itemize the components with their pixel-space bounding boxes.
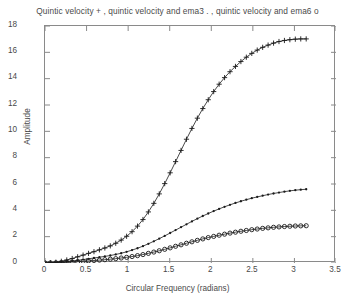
y-tick-label: 6 <box>0 179 17 187</box>
y-tick-label: 10 <box>0 126 17 134</box>
y-tick-label: 4 <box>0 205 17 213</box>
x-tick-label: 3.5 <box>322 266 348 274</box>
plot-svg <box>45 26 336 263</box>
figure-canvas: Quintic velocity + , quintic velocity an… <box>0 0 355 304</box>
plot-area <box>44 25 335 262</box>
y-tick-label: 18 <box>0 21 17 29</box>
y-axis-label: Amplitude <box>23 87 32 167</box>
x-tick-label: 2.5 <box>239 266 265 274</box>
y-tick-label: 14 <box>0 73 17 81</box>
y-tick-label: 0 <box>0 258 17 266</box>
y-tick-label: 8 <box>0 152 17 160</box>
y-tick-label: 12 <box>0 100 17 108</box>
x-tick-label: 0 <box>31 266 57 274</box>
y-tick-label: 16 <box>0 47 17 55</box>
x-tick-label: 3 <box>280 266 306 274</box>
x-tick-label: 0.5 <box>73 266 99 274</box>
x-axis-label: Circular Frequency (radians) <box>0 284 355 293</box>
chart-title: Quintic velocity + , quintic velocity an… <box>0 6 355 16</box>
x-tick-label: 2 <box>197 266 223 274</box>
x-tick-label: 1.5 <box>156 266 182 274</box>
y-tick-label: 2 <box>0 231 17 239</box>
x-tick-label: 1 <box>114 266 140 274</box>
